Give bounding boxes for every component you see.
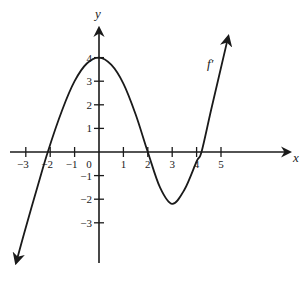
y-axis-label: y [93,6,101,21]
x-tick-label: 0 [86,158,92,170]
y-tick-label: −1 [80,170,92,182]
y-tick-label: −3 [80,217,92,229]
x-tick-label: 3 [169,158,175,170]
chart-svg: −3−2−1012345−3−2−11234 y x f′ [0,0,306,295]
x-tick-label: 5 [218,158,224,170]
curve-label: f′ [207,56,214,71]
x-axis-label: x [292,150,299,165]
y-tick-label: 1 [87,122,93,134]
y-tick-label: −2 [80,193,92,205]
x-tick-label: 1 [121,158,127,170]
chart-container: −3−2−1012345−3−2−11234 y x f′ [0,0,306,295]
x-tick-label: −1 [66,158,78,170]
axes [10,28,290,263]
y-tick-label: 2 [87,99,93,111]
y-tick-label: 3 [87,75,93,87]
x-tick-label: −3 [17,158,29,170]
